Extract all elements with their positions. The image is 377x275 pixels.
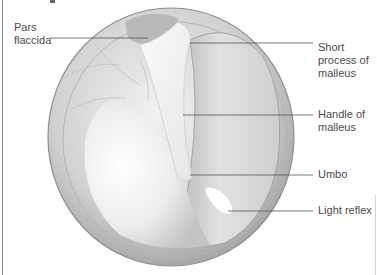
label-pars-flaccida: Pars flaccida (14, 21, 51, 47)
label-line: Short (318, 41, 369, 54)
label-line: Handle of (318, 108, 365, 121)
label-handle-of-malleus: Handle of malleus (318, 108, 365, 134)
label-line: Light reflex (318, 204, 372, 217)
label-line: Umbo (318, 168, 347, 181)
label-line: flaccida (14, 34, 51, 47)
label-umbo: Umbo (318, 168, 347, 181)
label-line: Pars (14, 21, 51, 34)
label-light-reflex: Light reflex (318, 204, 372, 217)
label-line: process of (318, 54, 369, 67)
label-line: malleus (318, 121, 365, 134)
label-short-process: Short process of malleus (318, 41, 369, 80)
label-line: malleus (318, 67, 369, 80)
